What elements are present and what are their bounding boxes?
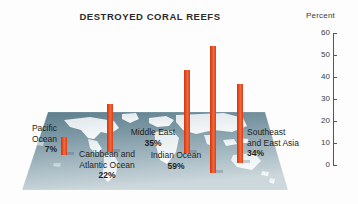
label-caribbean-line1: Caribbean and bbox=[62, 149, 152, 160]
bar-indian-ocean bbox=[210, 46, 216, 173]
label-caribbean-percent: 22% bbox=[62, 170, 152, 181]
y-label-50: 50 bbox=[308, 51, 330, 59]
label-middle-east-line1: Middle East bbox=[122, 127, 184, 138]
axis-title-percent: Percent bbox=[306, 11, 335, 20]
bar-southeast-east-asia bbox=[237, 84, 243, 163]
y-tick-10 bbox=[333, 143, 337, 144]
label-seasia-line1: Southeast bbox=[247, 127, 317, 138]
y-label-0: 0 bbox=[308, 161, 330, 169]
label-caribbean-atlantic-ocean: Caribbean and Atlantic Ocean 22% bbox=[62, 149, 152, 181]
coral-reefs-chart: DESTROYED CORAL REEFS bbox=[0, 0, 358, 204]
label-caribbean-line2: Atlantic Ocean bbox=[62, 160, 152, 171]
bar-middle-east bbox=[184, 70, 190, 153]
bar-shadow-indian-ocean bbox=[216, 170, 223, 173]
y-tick-20 bbox=[333, 121, 337, 122]
y-tick-50 bbox=[333, 55, 337, 56]
bar-shadow-southeast-east-asia bbox=[243, 160, 250, 163]
label-middle-east: Middle East 35% bbox=[122, 127, 184, 148]
y-label-60: 60 bbox=[308, 29, 330, 37]
y-label-40: 40 bbox=[308, 73, 330, 81]
label-pacific-percent: 7% bbox=[2, 144, 57, 155]
label-indian-ocean: Indian Ocean 59% bbox=[143, 150, 209, 171]
y-tick-60 bbox=[333, 33, 337, 34]
y-tick-0 bbox=[333, 165, 337, 166]
label-middle-east-percent: 35% bbox=[122, 138, 184, 149]
y-label-30: 30 bbox=[308, 95, 330, 103]
y-tick-30 bbox=[333, 99, 337, 100]
y-tick-40 bbox=[333, 77, 337, 78]
label-southeast-east-asia: Southeast and East Asia 34% bbox=[247, 127, 317, 159]
label-pacific-line2: Ocean bbox=[2, 134, 57, 145]
y-label-10: 10 bbox=[308, 139, 330, 147]
bar-caribbean-atlantic-ocean bbox=[107, 104, 113, 152]
label-seasia-line2: and East Asia bbox=[247, 138, 317, 149]
y-label-20: 20 bbox=[308, 117, 330, 125]
label-seasia-percent: 34% bbox=[247, 148, 317, 159]
label-pacific-ocean: Pacific Ocean 7% bbox=[2, 123, 57, 155]
label-pacific-line1: Pacific bbox=[2, 123, 57, 134]
label-indian-ocean-percent: 59% bbox=[143, 161, 209, 172]
chart-title: DESTROYED CORAL REEFS bbox=[0, 11, 300, 22]
label-indian-ocean-line1: Indian Ocean bbox=[143, 150, 209, 161]
